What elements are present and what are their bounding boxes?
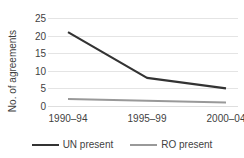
- series-line: [68, 99, 226, 103]
- y-axis-title: No. of agreements: [2, 16, 24, 126]
- plot-area: [48, 18, 238, 106]
- series-line: [68, 32, 226, 88]
- legend-item[interactable]: RO present: [130, 139, 212, 151]
- series-lines: [48, 18, 238, 106]
- y-tick-label: 15: [24, 48, 46, 59]
- y-axis-tick-labels: 0510152025: [24, 13, 46, 107]
- x-tick-label: 1990–94: [39, 112, 97, 125]
- gridline: [48, 106, 238, 107]
- legend-line-icon: [32, 144, 59, 146]
- x-axis-tick-labels: 1990–941995–992000–04: [48, 112, 238, 126]
- line-chart: No. of agreements 0510152025 1990–941995…: [0, 0, 244, 158]
- y-tick-label: 20: [24, 31, 46, 42]
- y-tick-label: 0: [24, 101, 46, 112]
- y-tick-label: 5: [24, 83, 46, 94]
- legend-item[interactable]: UN present: [32, 139, 114, 151]
- x-tick-label: 1995–99: [118, 112, 176, 125]
- legend-label: UN present: [63, 139, 114, 151]
- y-tick-label: 10: [24, 66, 46, 77]
- x-tick-label: 2000–04: [197, 112, 244, 125]
- legend-label: RO present: [161, 139, 212, 151]
- chart-legend: UN presentRO present: [0, 136, 244, 154]
- legend-line-icon: [130, 144, 157, 146]
- y-tick-label: 25: [24, 13, 46, 24]
